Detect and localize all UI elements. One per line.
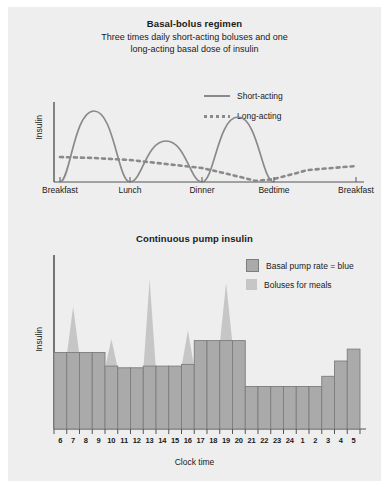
basal-rate-bar (80, 353, 93, 430)
basal-rate-bar (207, 341, 220, 429)
bolus-spike (67, 307, 79, 354)
basal-rate-bar (284, 387, 297, 430)
basal-rate-bar (92, 353, 105, 430)
basal-rate-bar (156, 366, 169, 429)
basal-rate-bar (54, 353, 67, 430)
basal-rate-bar (322, 376, 335, 429)
bolus-spike (182, 330, 194, 365)
basal-rate-bar (233, 341, 246, 429)
bolus-spike (220, 283, 232, 342)
bolus-spike (144, 279, 156, 367)
basal-rate-bar (131, 368, 144, 429)
basal-rate-bar (220, 341, 233, 429)
bottom-chart-x-axis-label: Clock time (8, 457, 381, 467)
bolus-spike (105, 339, 117, 367)
top-xtick-dinner: Dinner (175, 185, 229, 195)
basal-rate-bar (296, 387, 309, 430)
basal-rate-bar (245, 387, 258, 430)
basal-rate-bar (118, 368, 131, 429)
basal-rate-bar (309, 387, 322, 430)
top-xtick-breakfast-2: Breakfast (326, 185, 386, 195)
basal-rate-bar (182, 364, 195, 429)
basal-rate-bar (335, 361, 348, 429)
basal-rate-bar (194, 341, 207, 429)
basal-rate-bar (271, 387, 284, 430)
basal-rate-bar (143, 366, 156, 429)
basal-rate-bar (169, 366, 182, 429)
basal-rate-bar (258, 387, 271, 430)
continuous-pump-chart: Continuous pump insulin Basal pump rate … (8, 217, 381, 481)
top-xtick-breakfast-1: Breakfast (30, 185, 90, 195)
basal-bolus-chart: Basal-bolus regimen Three times daily sh… (8, 7, 381, 203)
x-tick-label-5: 5 (343, 436, 364, 445)
figure-panel: Basal-bolus regimen Three times daily sh… (8, 7, 381, 481)
basal-rate-bar (67, 353, 80, 430)
top-xtick-bedtime: Bedtime (246, 185, 302, 195)
top-xtick-lunch: Lunch (105, 185, 155, 195)
top-chart-plot (8, 7, 381, 203)
basal-rate-bar (105, 366, 118, 429)
basal-rate-bar (347, 349, 360, 429)
